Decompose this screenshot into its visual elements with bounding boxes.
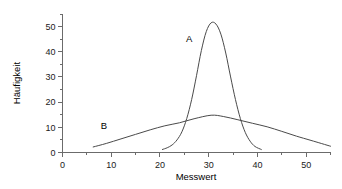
x-axis-title: Messwert <box>176 171 217 182</box>
y-axis-title: Häufigkeit <box>11 62 22 105</box>
y-tick-label: 30 <box>45 72 55 82</box>
x-axis-group: 01020304050 <box>60 153 331 170</box>
y-tick-label: 0 <box>50 148 55 158</box>
y-axis-group: 01020304050 <box>45 14 62 158</box>
x-tick-label: 10 <box>106 160 116 170</box>
data-curves <box>93 22 330 149</box>
x-axis-tick-labels: 01020304050 <box>60 160 311 170</box>
y-tick-label: 20 <box>45 97 55 107</box>
x-axis-ticks <box>63 153 331 158</box>
x-tick-label: 20 <box>155 160 165 170</box>
series-label-a: A <box>186 33 193 44</box>
series-label-b: B <box>101 120 107 131</box>
curve-annotations: AB <box>101 33 193 131</box>
y-tick-label: 10 <box>45 123 55 133</box>
chart-container: 01020304050 01020304050 AB Messwert Häuf… <box>0 0 342 189</box>
x-tick-label: 50 <box>301 160 311 170</box>
y-axis-tick-labels: 01020304050 <box>45 22 55 158</box>
x-tick-label: 40 <box>252 160 262 170</box>
y-tick-label: 50 <box>45 22 55 32</box>
y-tick-label: 40 <box>45 47 55 57</box>
x-tick-label: 30 <box>204 160 214 170</box>
curve-a <box>162 22 261 149</box>
x-tick-label: 0 <box>60 160 65 170</box>
curve-b <box>93 115 330 147</box>
y-axis-ticks <box>58 14 63 153</box>
frequency-distribution-chart: 01020304050 01020304050 AB Messwert Häuf… <box>0 0 342 189</box>
